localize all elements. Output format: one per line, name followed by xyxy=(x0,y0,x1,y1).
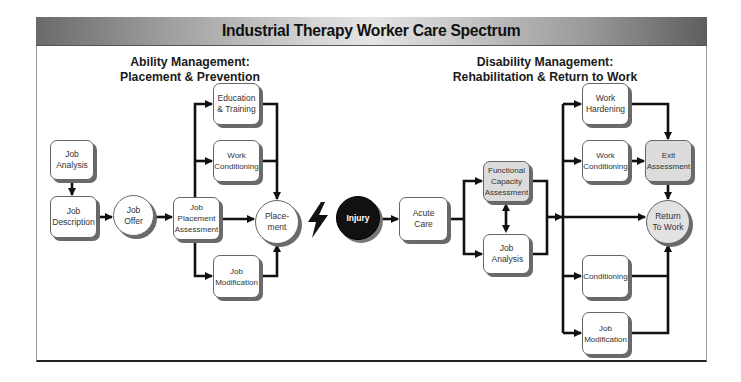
node-label: Exit Assessment xyxy=(647,150,691,172)
node-label: Job Analysis xyxy=(492,243,522,265)
node-label: Conditioning xyxy=(583,271,627,282)
node-work-conditioning-right: Work Conditioning xyxy=(582,140,629,182)
node-work-hardening: Work Hardening xyxy=(582,83,629,125)
node-label: Job Modification xyxy=(215,266,258,288)
node-education-training: Education & Training xyxy=(213,83,260,125)
node-functional-capacity-assessment: Functional Capacity Assessment xyxy=(483,161,530,202)
node-label: Education & Training xyxy=(216,93,257,115)
node-label: Job Description xyxy=(52,206,95,228)
node-label: Return To Work xyxy=(651,211,685,233)
node-job-description: Job Description xyxy=(50,196,97,238)
node-label: Work Conditioning xyxy=(583,150,627,172)
node-label: Job Placement Assessment xyxy=(175,202,219,235)
node-return-to-work: Return To Work xyxy=(646,200,690,244)
node-injury: Injury xyxy=(336,196,380,240)
node-label: Place- ment xyxy=(262,211,292,233)
node-label: Job Offer xyxy=(120,205,148,227)
node-job-analysis-left: Job Analysis xyxy=(50,140,94,180)
node-label: Work Hardening xyxy=(585,93,626,115)
lightning-bolt-icon xyxy=(306,202,330,238)
node-job-placement-assessment: Job Placement Assessment xyxy=(173,197,220,240)
node-placement: Place- ment xyxy=(255,200,299,244)
node-work-conditioning-left: Work Conditioning xyxy=(213,140,260,182)
node-job-modification-right: Job Modification xyxy=(582,312,629,355)
node-label: Acute Care xyxy=(409,208,439,230)
node-conditioning: Conditioning xyxy=(582,255,629,298)
connector-lines xyxy=(0,0,741,382)
node-label: Job Analysis xyxy=(53,149,91,171)
node-job-offer: Job Offer xyxy=(113,195,154,236)
node-exit-assessment: Exit Assessment xyxy=(645,140,692,182)
node-label: Functional Capacity Assessment xyxy=(485,165,529,198)
node-job-analysis-right: Job Analysis xyxy=(483,234,530,274)
node-job-modification-left: Job Modification xyxy=(213,255,260,298)
node-label: Work Conditioning xyxy=(214,150,258,172)
node-acute-care: Acute Care xyxy=(399,197,448,241)
node-label: Job Modification xyxy=(584,323,627,345)
node-label: Injury xyxy=(346,213,369,224)
